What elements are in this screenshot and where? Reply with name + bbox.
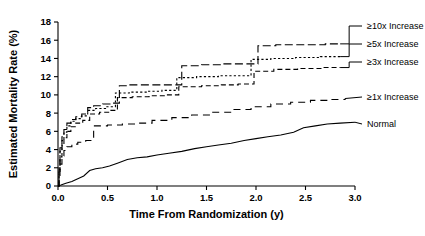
y-tick-label: 4 (46, 144, 52, 155)
y-tick-label: 14 (40, 53, 51, 64)
y-tick-label: 2 (46, 162, 51, 173)
legend-leader-3 (345, 97, 362, 99)
x-tick-label: 2.5 (299, 192, 313, 203)
legend-label-3: ≥1x Increase (367, 92, 418, 102)
legend-labels-group: ≥10x Increase≥5x Increase≥3x Increase≥1x… (367, 21, 423, 129)
legend-leader-0 (340, 26, 362, 44)
x-axis-ticks: 0.00.51.01.52.02.53.0 (51, 186, 361, 203)
legend-label-0: ≥10x Increase (367, 21, 423, 31)
x-tick-label: 2.0 (249, 192, 262, 203)
x-tick-label: 0.5 (101, 192, 115, 203)
x-tick-label: 1.0 (150, 192, 163, 203)
legend-label-4: Normal (367, 119, 396, 129)
x-tick-label: 3.0 (348, 192, 361, 203)
y-tick-label: 6 (46, 126, 51, 137)
data-series-group (58, 44, 355, 186)
series-line-0 (58, 44, 340, 186)
series-line-1 (58, 57, 340, 186)
legend-label-1: ≥5x Increase (367, 39, 418, 49)
legend-leader-4 (355, 122, 362, 124)
y-tick-label: 16 (40, 35, 51, 46)
legend-label-2: ≥3x Increase (367, 57, 418, 67)
y-tick-label: 8 (46, 108, 51, 119)
mortality-rate-chart: 024681012141618 0.00.51.01.52.02.53.0 ≥1… (0, 0, 425, 236)
chart-canvas: 024681012141618 0.00.51.01.52.02.53.0 ≥1… (0, 0, 425, 236)
x-tick-label: 1.5 (200, 192, 214, 203)
legend-leader-2 (340, 62, 362, 68)
y-tick-label: 0 (46, 180, 51, 191)
y-axis-title: Estimated Mortality Rate (%) (7, 29, 19, 178)
y-tick-label: 10 (40, 89, 51, 100)
x-axis-title: Time From Randomization (y) (129, 208, 284, 220)
y-tick-label: 12 (40, 71, 51, 82)
series-line-4 (58, 122, 355, 186)
x-tick-label: 0.0 (51, 192, 64, 203)
y-axis-ticks: 024681012141618 (40, 16, 58, 191)
legend-leader-1 (340, 44, 362, 57)
y-tick-label: 18 (40, 16, 51, 27)
legend-leader-lines (340, 26, 362, 124)
